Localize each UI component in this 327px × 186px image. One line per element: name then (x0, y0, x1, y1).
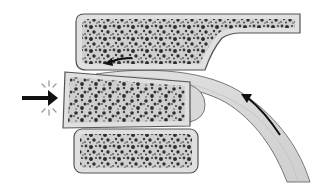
middle-vertebra-displaced (63, 72, 190, 128)
force-arrow (22, 90, 58, 106)
diagram-canvas (0, 0, 327, 186)
lower-vertebra (74, 129, 198, 173)
